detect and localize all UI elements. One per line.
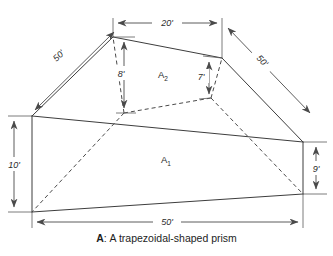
hidden-edge-right-riser (211, 58, 222, 98)
dimension-right-height: 9' (303, 142, 327, 194)
bottom-width-label: 50' (161, 217, 173, 227)
area-label-a2: A2 (158, 69, 168, 82)
dimension-inner-right-height: 7' (192, 56, 222, 99)
hidden-edge-back-ridge (124, 98, 211, 113)
caption-separator: : (104, 232, 107, 244)
left-slant-dimension-line (35, 32, 114, 110)
caption-text: A trapezoidal-shaped prism (110, 232, 237, 244)
trapezoidal-prism-diagram: 20' 50' 50' 8' 7' (0, 0, 333, 256)
edge-upper-right-slant (222, 58, 303, 142)
right-height-label: 9' (313, 164, 320, 174)
edge-top-ridge (113, 37, 222, 58)
dimension-right-slant: 50' (228, 28, 310, 113)
dimension-inner-left-height: 8' (112, 37, 136, 113)
figure-caption: A: A trapezoidal-shaped prism (0, 232, 333, 244)
left-height-label: 10' (8, 160, 20, 170)
dimension-top-width: 20' (113, 15, 222, 58)
hidden-edge-back-left (32, 113, 124, 212)
svg-text:A2: A2 (158, 69, 168, 82)
inner-right-ext-bottom (199, 98, 211, 99)
figure-container: 20' 50' 50' 8' 7' (0, 0, 333, 256)
area-label-a1: A1 (161, 154, 171, 167)
dimension-left-slant: 50' (35, 32, 114, 110)
caption-label: A (96, 232, 104, 244)
edge-upper-left-slant (32, 37, 113, 116)
inner-right-height-label: 7' (198, 72, 205, 82)
hidden-edge-back-right (211, 98, 303, 194)
area-a1-subscript: 1 (167, 160, 171, 167)
area-a2-subscript: 2 (164, 75, 168, 82)
edge-bottom (32, 194, 303, 212)
svg-text:A1: A1 (161, 154, 171, 167)
top-width-label: 20' (160, 18, 173, 28)
dimension-left-height: 10' (3, 116, 32, 212)
edge-mid-band (32, 116, 303, 142)
dimension-bottom-width: 50' (32, 194, 303, 228)
inner-left-height-label: 8' (118, 69, 125, 79)
